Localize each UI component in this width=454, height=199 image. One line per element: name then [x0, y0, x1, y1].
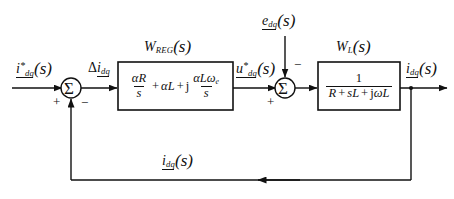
regulator-term-proportional-integral: αR s [129, 72, 149, 99]
error-vector-symbol: idq [97, 61, 110, 77]
reference-vector-symbol: i*dq [16, 61, 34, 78]
load-transfer-function: 1 R+sL+jωL [318, 62, 400, 110]
load-numerator: 1 [353, 72, 365, 85]
voltage-vector-symbol: u*dq [236, 61, 257, 78]
block-diagram: Σ Σ + − + − i*dq(s) Δidq u*dq(s) edq(s) … [0, 0, 454, 199]
label-current-feedback: idq(s) [162, 152, 193, 170]
output-vector-symbol: idq [406, 62, 419, 78]
regulator-term-inductance: αL [161, 79, 175, 94]
regulator-operator-1: + [150, 79, 161, 94]
label-current-error: Δidq [88, 61, 110, 77]
label-current-output: idq(s) [406, 60, 437, 78]
label-voltage-reference: u*dq(s) [236, 60, 275, 78]
load-block-title: WL(s) [336, 38, 371, 55]
label-back-emf-disturbance: edq(s) [262, 12, 295, 30]
error-summer-plus-sign: + [53, 95, 60, 108]
load-denominator: R+sL+jωL [326, 86, 393, 100]
regulator-transfer-function: αR s + αL + j αLωe s [118, 62, 233, 110]
disturbance-summer-plus-sign: + [267, 95, 274, 108]
error-summer-sigma: Σ [64, 80, 74, 97]
regulator-block-title: WREG(s) [144, 38, 191, 55]
disturbance-vector-symbol: edq [262, 14, 277, 30]
load-fraction: 1 R+sL+jωL [326, 72, 393, 99]
disturbance-summer-sigma: Σ [278, 80, 288, 97]
error-summer-minus-sign: − [81, 96, 88, 109]
feedback-vector-symbol: idq [162, 154, 175, 170]
regulator-operator-2: + [175, 79, 186, 94]
disturbance-summer-minus-sign: − [294, 58, 301, 71]
regulator-term-cross-coupling: αLωe s [190, 72, 222, 100]
regulator-imaginary-unit: j [186, 79, 189, 94]
label-current-reference: i*dq(s) [16, 60, 52, 78]
